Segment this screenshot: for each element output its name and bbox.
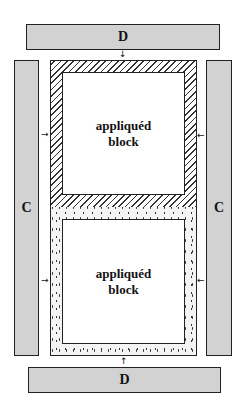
arrow-right-icon-top: → <box>41 130 49 139</box>
arrow-left-icon-bottom: ← <box>197 276 205 285</box>
top-block-line1: appliquéd <box>96 118 152 134</box>
top-block-line2: block <box>108 134 138 150</box>
bottom-d-strip: D <box>28 367 221 393</box>
arrow-right-icon-bottom: → <box>41 276 49 285</box>
arrow-up-icon: ↑ <box>120 357 128 366</box>
arrow-left-icon-top: ← <box>197 131 205 140</box>
bottom-block-line2: block <box>108 282 138 298</box>
top-d-strip: D <box>26 24 220 50</box>
top-d-label: D <box>118 29 128 45</box>
bottom-d-label: D <box>119 372 129 388</box>
arrow-down-icon: ↓ <box>119 50 127 59</box>
top-appliqued-block: appliquéd block <box>62 72 185 195</box>
left-c-strip: C <box>14 60 39 356</box>
right-c-label: C <box>214 200 224 216</box>
right-c-strip: C <box>206 60 232 356</box>
left-c-label: C <box>21 200 31 216</box>
bottom-block-line1: appliquéd <box>96 266 152 282</box>
top-block-hatched-border: appliquéd block <box>50 60 197 209</box>
bottom-block-dotted-border: appliquéd block <box>50 207 197 356</box>
bottom-appliqued-block: appliquéd block <box>62 219 185 344</box>
